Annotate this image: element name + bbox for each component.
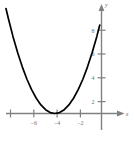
x-tick-label-minus4: −4 [54, 120, 60, 126]
x-axis-label: x [125, 111, 129, 117]
y-tick-label-4: 4 [92, 75, 95, 81]
y-axis-tick-labels: 2 4 6 8 [92, 28, 95, 105]
y-axis-label: y [104, 2, 108, 8]
x-tick-label-minus2: −2 [77, 120, 83, 126]
x-tick-label-minus6: −6 [31, 120, 37, 126]
parabola-graph-figure: x y −6 −4 −2 2 [0, 0, 134, 142]
x-axis-tick-labels: −6 −4 −2 [31, 120, 84, 126]
y-tick-label-8: 8 [92, 28, 95, 34]
coordinate-plane-svg: x y −6 −4 −2 2 [0, 0, 134, 142]
y-axis: y [99, 2, 108, 130]
x-axis-arrow-icon [117, 111, 125, 117]
parabola-curve [6, 9, 100, 114]
x-axis: x [6, 111, 129, 117]
y-axis-arrow-icon [99, 4, 105, 11]
y-tick-label-2: 2 [92, 99, 95, 105]
